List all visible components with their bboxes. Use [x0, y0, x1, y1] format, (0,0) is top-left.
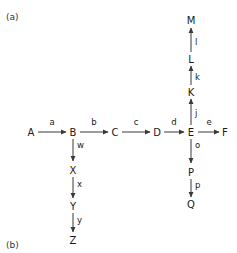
node-label-z: Z — [70, 235, 77, 246]
reaction-pathway-diagram: abcdejklopwxy ABCDEFKLMPQXYZ (a) (b) — [0, 0, 237, 253]
edge-label-j: j — [194, 108, 197, 118]
nodes-layer: ABCDEFKLMPQXYZ — [28, 15, 229, 246]
node-label-x: X — [70, 165, 77, 176]
edge-label-p: p — [195, 180, 200, 190]
node-label-a: A — [28, 127, 35, 138]
node-label-b: B — [70, 127, 77, 138]
edge-label-w: w — [77, 140, 84, 150]
figure-root: abcdejklopwxy ABCDEFKLMPQXYZ (a) (b) — [0, 0, 237, 253]
node-label-f: F — [222, 127, 228, 138]
edge-label-c: c — [134, 117, 139, 127]
edge-label-x: x — [77, 179, 82, 189]
node-label-l: L — [188, 54, 194, 65]
edge-label-l: l — [195, 37, 197, 47]
edge-label-k: k — [195, 72, 200, 82]
node-label-m: M — [187, 15, 196, 26]
node-label-p: P — [188, 167, 194, 178]
node-label-d: D — [153, 127, 161, 138]
edge-label-y: y — [77, 215, 82, 225]
panel-label-b: (b) — [6, 240, 19, 250]
edge-label-o: o — [195, 140, 200, 150]
node-label-c: C — [112, 127, 119, 138]
edge-label-e: e — [206, 117, 211, 127]
panel-label-a: (a) — [6, 12, 19, 22]
node-label-q: Q — [187, 199, 195, 210]
edge-label-d: d — [171, 117, 176, 127]
edge-label-b: b — [91, 117, 96, 127]
node-label-y: Y — [69, 201, 77, 212]
edge-label-a: a — [49, 117, 54, 127]
node-label-k: K — [188, 87, 195, 98]
node-label-e: E — [188, 127, 194, 138]
